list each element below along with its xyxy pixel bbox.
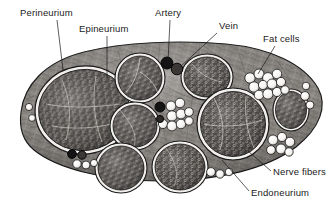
label-fat-cells: Fat cells	[263, 33, 300, 44]
label-artery: Artery	[155, 7, 181, 18]
label-endoneurium: Endoneurium	[251, 187, 309, 198]
vein-lumen	[171, 63, 183, 75]
fascicle-shading	[118, 56, 162, 100]
label-perineurium: Perineurium	[20, 7, 73, 18]
fascicle-bottom-mid	[152, 141, 208, 193]
label-nerve-fibers: Nerve fibers	[273, 166, 326, 177]
vessel-center-secondary	[156, 115, 163, 122]
fascicle-shading	[201, 92, 266, 157]
fascicle-shading	[155, 144, 205, 190]
label-epineurium: Epineurium	[79, 23, 129, 34]
figure-canvas: Perineurium Epineurium Artery Vein Fat c…	[0, 0, 336, 202]
label-vein: Vein	[219, 20, 238, 31]
vessel-lower-left-secondary	[78, 151, 86, 159]
fascicle-top-mid	[115, 53, 165, 103]
vessel-lower-left	[68, 150, 77, 159]
fascicle-shading	[98, 146, 144, 190]
vessel-center	[155, 102, 165, 112]
nerve-cross-section-figure: Perineurium Epineurium Artery Vein Fat c…	[0, 0, 336, 202]
fascicle-bottom-left	[95, 143, 147, 193]
